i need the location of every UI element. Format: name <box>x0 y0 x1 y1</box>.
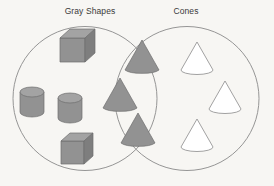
region-cones-only <box>181 42 241 152</box>
gray-cylinder[interactable] <box>58 93 82 123</box>
white-cone[interactable] <box>181 42 213 75</box>
venn-diagram: Gray Shapes Cones <box>0 0 274 186</box>
gray-cone[interactable] <box>125 40 159 73</box>
gray-cone[interactable] <box>103 78 137 111</box>
venn-diagram-canvas: Gray Shapes Cones <box>0 0 274 186</box>
left-set-label: Gray Shapes <box>65 6 116 16</box>
region-gray-cones <box>103 40 159 146</box>
region-gray-shapes-only <box>20 29 95 164</box>
gray-cylinder[interactable] <box>20 87 44 117</box>
white-cone[interactable] <box>209 81 241 114</box>
gray-cube[interactable] <box>61 133 93 164</box>
white-cone[interactable] <box>181 119 213 152</box>
gray-cube[interactable] <box>60 29 95 62</box>
right-set-label: Cones <box>173 6 198 16</box>
